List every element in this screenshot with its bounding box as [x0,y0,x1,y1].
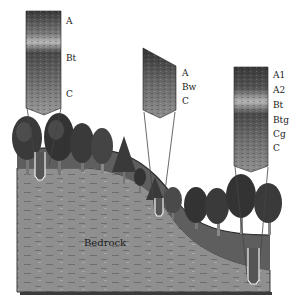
horizon-label-middle-bw: Bw [182,83,196,92]
horizon-label-left-a: A [66,17,73,26]
horizon-label-right-btg: Btg [273,116,289,125]
horizon-label-right-cg: Cg [273,130,286,139]
horizon-label-right-c: C [273,144,280,153]
horizon-label-left-bt: Bt [66,54,76,63]
deciduous-tree [254,183,282,235]
ground [17,147,272,295]
horizon-label-middle-c: C [182,97,189,106]
horizon-label-right-a2: A2 [273,86,285,95]
soil-pit-middle [155,198,163,216]
horizon-label-middle-a: A [182,69,189,78]
diagram-canvas [0,0,299,299]
soil-pit-right [248,248,259,284]
horizon-label-right-bt: Bt [273,101,283,110]
deciduous-tree [226,174,256,234]
horizon-label-left-c: C [66,90,73,99]
bedrock-label: Bedrock [84,238,126,248]
soil-pit-left [35,152,45,180]
soil-landscape-diagram: A Bt C A Bw C A1 A2 Bt Btg Cg C Bedrock [0,0,299,299]
bedrock-shadow [20,292,272,295]
horizon-label-right-a1: A1 [273,71,285,80]
